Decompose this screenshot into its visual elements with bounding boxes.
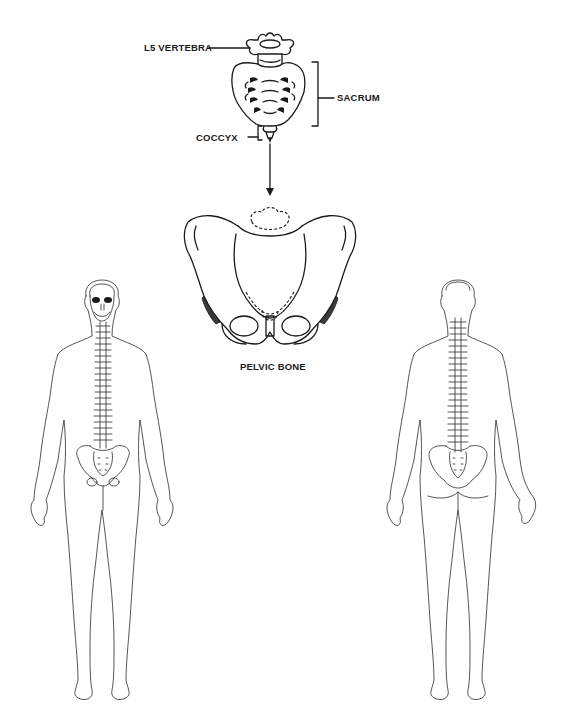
l5-vertebra-label: L5 VERTEBRA: [144, 42, 212, 53]
coccyx-label: COCCYX: [196, 132, 238, 143]
sacrum-label: SACRUM: [337, 92, 380, 103]
back-body-outline: [387, 280, 536, 700]
back-pelvis: [429, 446, 487, 488]
anatomy-diagram: L5 VERTEBRA SACRUM COCCYX PELVIC BONE: [0, 0, 566, 717]
back-body-figure: [0, 0, 566, 717]
pelvic-bone-label: PELVIC BONE: [240, 361, 306, 372]
back-spine: [448, 318, 468, 452]
